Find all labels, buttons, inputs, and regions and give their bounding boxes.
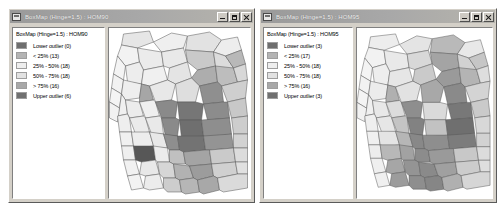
legend-swatch bbox=[267, 92, 278, 99]
legend-title: BoxMap (Hinge=1.5) : HOM90 bbox=[16, 31, 102, 37]
legend-item[interactable]: Upper outlier (6) bbox=[16, 91, 102, 100]
legend-swatch bbox=[267, 42, 278, 49]
legend-item[interactable]: 25% - 50% (18) bbox=[16, 61, 102, 70]
window-client-area: BoxMap (Hinge=1.5) : HOM95 Lower outlier… bbox=[260, 24, 496, 202]
window-title: BoxMap (Hinge=1.5) : HOM90 bbox=[25, 14, 217, 20]
boxmap-window-hom95[interactable]: BoxMap (Hinge=1.5) : HOM95 BoxMap (Hinge… bbox=[259, 8, 497, 203]
legend-panel[interactable]: BoxMap (Hinge=1.5) : HOM90 Lower outlier… bbox=[12, 27, 105, 199]
legend-swatch bbox=[16, 82, 27, 89]
legend-title: BoxMap (Hinge=1.5) : HOM95 bbox=[267, 31, 350, 37]
legend-label: Lower outlier (3) bbox=[284, 43, 322, 49]
window-icon bbox=[263, 13, 272, 21]
choropleth-map-hom90[interactable] bbox=[108, 27, 251, 199]
legend-panel[interactable]: BoxMap (Hinge=1.5) : HOM95 Lower outlier… bbox=[263, 27, 353, 199]
titlebar[interactable]: BoxMap (Hinge=1.5) : HOM95 bbox=[261, 10, 495, 23]
window-icon bbox=[12, 13, 21, 21]
legend-item[interactable]: < 25% (13) bbox=[16, 51, 102, 60]
legend-swatch bbox=[16, 42, 27, 49]
legend-swatch bbox=[267, 82, 278, 89]
legend-label: 50% - 75% (18) bbox=[284, 73, 321, 79]
legend-item[interactable]: Upper outlier (3) bbox=[267, 91, 350, 100]
legend-label: 50% - 75% (18) bbox=[33, 73, 70, 79]
legend-item[interactable]: Lower outlier (0) bbox=[16, 41, 102, 50]
legend-item[interactable]: 50% - 75% (18) bbox=[16, 71, 102, 80]
window-client-area: BoxMap (Hinge=1.5) : HOM90 Lower outlier… bbox=[9, 24, 254, 202]
maximize-button[interactable] bbox=[471, 12, 482, 22]
legend-swatch bbox=[16, 62, 27, 69]
legend-item[interactable]: 50% - 75% (18) bbox=[267, 71, 350, 80]
legend-swatch bbox=[267, 72, 278, 79]
legend-label: < 25% (17) bbox=[284, 53, 310, 59]
legend-label: > 75% (16) bbox=[33, 83, 59, 89]
legend-swatch bbox=[267, 62, 278, 69]
titlebar[interactable]: BoxMap (Hinge=1.5) : HOM90 bbox=[10, 10, 253, 23]
legend-label: < 25% (13) bbox=[33, 53, 59, 59]
legend-item[interactable]: < 25% (17) bbox=[267, 51, 350, 60]
legend-label: 25% - 50% (18) bbox=[284, 63, 321, 69]
choropleth-map-hom95[interactable] bbox=[356, 27, 493, 199]
legend-label: Lower outlier (0) bbox=[33, 43, 71, 49]
map-svg bbox=[357, 28, 492, 198]
legend-label: > 75% (16) bbox=[284, 83, 310, 89]
legend-item[interactable]: > 75% (16) bbox=[267, 81, 350, 90]
legend-label: 25% - 50% (18) bbox=[33, 63, 70, 69]
boxmap-window-hom90[interactable]: BoxMap (Hinge=1.5) : HOM90 BoxMap (Hinge… bbox=[8, 8, 255, 203]
close-button[interactable] bbox=[241, 12, 252, 22]
window-title: BoxMap (Hinge=1.5) : HOM95 bbox=[276, 14, 459, 20]
legend-item[interactable]: Lower outlier (3) bbox=[267, 41, 350, 50]
close-button[interactable] bbox=[483, 12, 494, 22]
window-controls bbox=[217, 12, 252, 22]
legend-swatch bbox=[16, 72, 27, 79]
window-controls bbox=[459, 12, 494, 22]
legend-label: Upper outlier (3) bbox=[284, 93, 322, 99]
minimize-button[interactable] bbox=[459, 12, 470, 22]
minimize-button[interactable] bbox=[217, 12, 228, 22]
legend-item[interactable]: 25% - 50% (18) bbox=[267, 61, 350, 70]
map-svg bbox=[109, 28, 250, 198]
legend-item[interactable]: > 75% (16) bbox=[16, 81, 102, 90]
maximize-button[interactable] bbox=[229, 12, 240, 22]
legend-swatch bbox=[16, 52, 27, 59]
legend-label: Upper outlier (6) bbox=[33, 93, 71, 99]
legend-swatch bbox=[16, 92, 27, 99]
legend-swatch bbox=[267, 52, 278, 59]
